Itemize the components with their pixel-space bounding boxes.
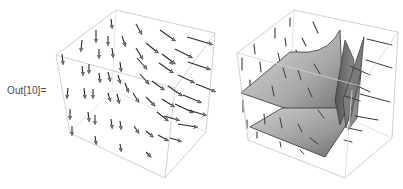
vector-field-graphic (40, 0, 230, 189)
surface-field-plot[interactable] (225, 0, 403, 189)
bounding-box (56, 10, 215, 178)
vector-field-plot[interactable] (40, 0, 230, 189)
surface-field-graphic (225, 0, 403, 189)
arrows (62, 19, 214, 156)
